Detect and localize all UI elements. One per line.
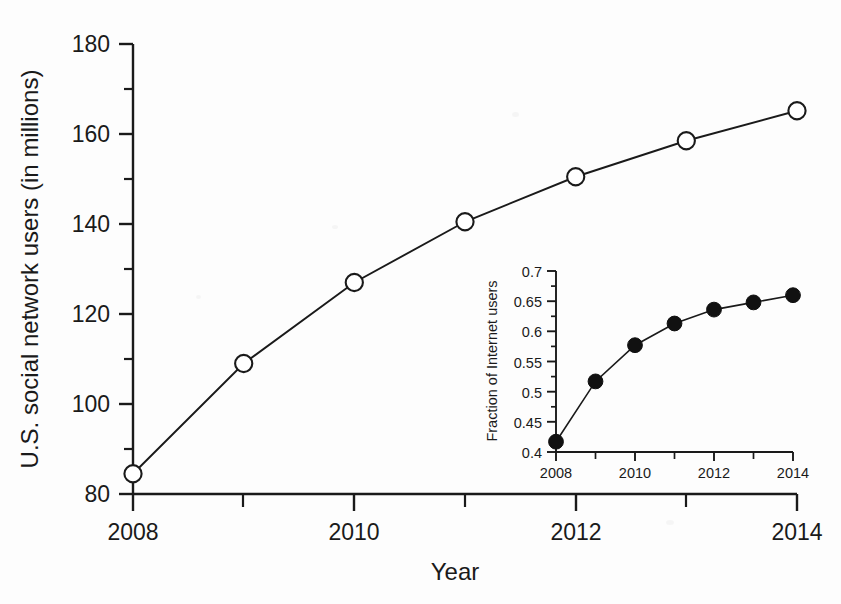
inset-point-2011: [667, 316, 682, 331]
inset-x-tick-label-2012: 2012: [698, 465, 730, 481]
inset-y-tick-label-040: 0.4: [522, 445, 542, 461]
inset-y-tick-label-045: 0.45: [514, 415, 542, 431]
main-plot: 180 160 140 120 100 80 2008 2010 2012 20…: [16, 31, 823, 585]
main-y-tick-label-120: 120: [72, 301, 110, 327]
main-point-2010: [346, 274, 363, 291]
inset-point-2008: [549, 434, 564, 449]
inset-plot: 0.7 0.65 0.6 0.55 0.5 0.45 0.4 2008 2010…: [484, 264, 809, 481]
figure-social-network-users: 180 160 140 120 100 80 2008 2010 2012 20…: [0, 0, 841, 604]
inset-x-ticks: [556, 452, 793, 461]
inset-point-2013: [746, 295, 761, 310]
inset-y-tick-label-070: 0.7: [522, 264, 542, 280]
inset-point-2010: [628, 338, 643, 353]
main-x-tick-label-2008: 2008: [107, 519, 158, 545]
chart-canvas: 180 160 140 120 100 80 2008 2010 2012 20…: [0, 0, 841, 604]
inset-y-tick-label-060: 0.6: [522, 324, 542, 340]
main-y-tick-label-80: 80: [84, 481, 110, 507]
main-x-tick-label-2012: 2012: [550, 519, 601, 545]
inset-y-tick-label-055: 0.55: [514, 355, 542, 371]
main-series-line: [133, 111, 797, 474]
main-series-markers: [124, 102, 805, 482]
inset-point-2014: [786, 288, 801, 303]
main-x-tick-label-2010: 2010: [328, 519, 379, 545]
main-y-tick-label-160: 160: [72, 121, 110, 147]
main-point-2011: [456, 213, 473, 230]
inset-point-2012: [707, 302, 722, 317]
inset-x-tick-label-2008: 2008: [540, 465, 572, 481]
main-x-ticks: [133, 494, 797, 511]
main-point-2009: [235, 355, 252, 372]
main-point-2008: [124, 465, 141, 482]
main-point-2013: [678, 132, 695, 149]
main-y-minor-ticks: [124, 89, 133, 449]
main-y-tick-label-180: 180: [72, 31, 110, 57]
main-point-2012: [567, 168, 584, 185]
inset-y-axis-title: Fraction of Internet users: [484, 280, 500, 441]
main-x-axis-title: Year: [431, 558, 480, 585]
main-y-tick-label-140: 140: [72, 211, 110, 237]
main-y-axis-title: U.S. social network users (in millions): [16, 70, 43, 469]
inset-point-2009: [588, 374, 603, 389]
main-y-tick-label-100: 100: [72, 391, 110, 417]
inset-x-tick-label-2014: 2014: [777, 465, 809, 481]
inset-x-tick-label-2010: 2010: [619, 465, 651, 481]
inset-y-major-ticks: [547, 271, 556, 452]
inset-y-tick-label-065: 0.65: [514, 294, 542, 310]
main-point-2014: [788, 102, 805, 119]
inset-series-markers: [549, 288, 801, 449]
inset-y-tick-label-050: 0.5: [522, 385, 542, 401]
main-x-tick-label-2014: 2014: [771, 519, 822, 545]
